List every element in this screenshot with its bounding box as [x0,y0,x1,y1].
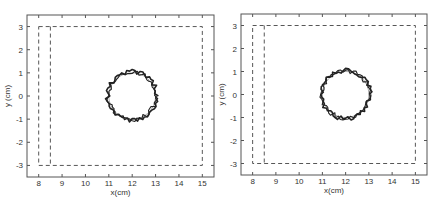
right-plot: 89101112131415-3-2-10123x(cm)y (cm) [0,0,435,204]
y-tick-label: -2 [230,137,238,146]
boundary-line [253,26,416,164]
y-tick-label: -3 [230,160,238,169]
x-tick-label: 9 [274,177,279,186]
x-tick-label: 13 [364,177,373,186]
x-axis-label: x(cm) [324,186,344,195]
axes-frame [241,14,427,175]
y-tick-label: 2 [233,45,238,54]
x-tick-label: 12 [341,177,350,186]
y-tick-label: 1 [233,68,238,77]
x-tick-label: 10 [295,177,304,186]
x-tick-label: 11 [318,177,327,186]
x-tick-label: 8 [250,177,255,186]
y-tick-label: 3 [233,22,238,31]
right-plot-svg: 89101112131415-3-2-10123x(cm)y (cm) [0,0,435,204]
x-tick-label: 14 [388,177,397,186]
y-axis-label: y (cm) [217,83,226,106]
y-tick-label: -1 [230,114,238,123]
x-tick-label: 15 [411,177,420,186]
y-tick-label: 0 [233,91,238,100]
